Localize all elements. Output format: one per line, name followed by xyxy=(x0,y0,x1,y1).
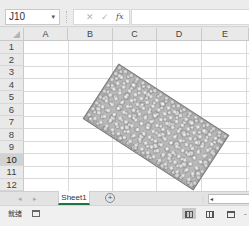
column-header-e[interactable]: E xyxy=(202,28,249,41)
row-header-3[interactable]: 3 xyxy=(0,66,24,79)
row-header-2[interactable]: 2 xyxy=(0,54,24,67)
status-bar: 就绪 - xyxy=(0,205,249,226)
row-header-5[interactable]: 5 xyxy=(0,91,24,104)
gridline xyxy=(24,66,249,67)
row-header-6[interactable]: 6 xyxy=(0,104,24,117)
page-break-preview-button[interactable] xyxy=(224,208,238,219)
add-sheet-button[interactable]: + xyxy=(105,193,115,203)
normal-view-icon xyxy=(185,211,193,218)
formula-bar-separator[interactable] xyxy=(66,11,68,23)
select-all-button[interactable] xyxy=(0,28,24,41)
row-header-7[interactable]: 7 xyxy=(0,116,24,129)
previous-sheet-icon[interactable]: ◂ xyxy=(18,192,22,205)
chevron-down-icon[interactable]: ▾ xyxy=(51,10,55,24)
worksheet-grid[interactable]: A B C D E 1 2 3 4 5 6 7 8 9 10 11 12 13 xyxy=(0,28,249,191)
row-header-12[interactable]: 12 xyxy=(0,179,24,192)
normal-view-button[interactable] xyxy=(182,208,196,219)
gridline xyxy=(24,178,249,179)
page-break-preview-icon xyxy=(227,211,235,218)
zoom-out-button[interactable]: - xyxy=(244,209,247,219)
horizontal-scrollbar[interactable]: ◂ xyxy=(208,194,249,204)
status-text: 就绪 xyxy=(8,209,22,219)
cancel-icon[interactable]: ✕ xyxy=(86,10,94,24)
page-layout-view-button[interactable] xyxy=(203,208,217,219)
row-header-9[interactable]: 9 xyxy=(0,141,24,154)
excel-window: J10 ▾ ✕ ✓ fx A B C D E 1 2 3 4 5 6 7 8 9… xyxy=(0,0,249,226)
formula-input[interactable] xyxy=(131,9,249,25)
formula-buttons: ✕ ✓ fx xyxy=(73,9,130,25)
gridline xyxy=(246,41,247,191)
page-layout-icon xyxy=(206,211,214,218)
sheet-tab-sheet1[interactable]: Sheet1 xyxy=(58,191,90,205)
next-sheet-icon[interactable]: ▸ xyxy=(33,192,37,205)
select-all-triangle-icon xyxy=(13,31,20,38)
name-box[interactable]: J10 ▾ xyxy=(5,9,60,25)
tab-split-handle[interactable]: ⋮ xyxy=(200,195,206,203)
column-header-c[interactable]: C xyxy=(113,28,157,41)
column-header-b[interactable]: B xyxy=(68,28,113,41)
gridline xyxy=(68,41,69,191)
column-header-a[interactable]: A xyxy=(24,28,68,41)
row-header-8[interactable]: 8 xyxy=(0,129,24,142)
record-macro-icon[interactable] xyxy=(32,210,40,217)
insert-function-icon[interactable]: fx xyxy=(116,10,123,24)
gridline xyxy=(24,53,249,54)
row-header-4[interactable]: 4 xyxy=(0,79,24,92)
scroll-left-icon[interactable]: ◂ xyxy=(210,195,213,203)
sheet-tab-bar: ◂ ▸ Sheet1 + ⋮ ◂ xyxy=(0,191,249,205)
gridline xyxy=(24,166,249,167)
row-header-10[interactable]: 10 xyxy=(0,154,24,167)
row-header-11[interactable]: 11 xyxy=(0,166,24,179)
row-header-1[interactable]: 1 xyxy=(0,41,24,54)
enter-icon[interactable]: ✓ xyxy=(101,10,109,24)
name-box-value: J10 xyxy=(9,11,25,22)
column-header-d[interactable]: D xyxy=(157,28,202,41)
formula-bar: J10 ▾ ✕ ✓ fx xyxy=(0,0,249,27)
